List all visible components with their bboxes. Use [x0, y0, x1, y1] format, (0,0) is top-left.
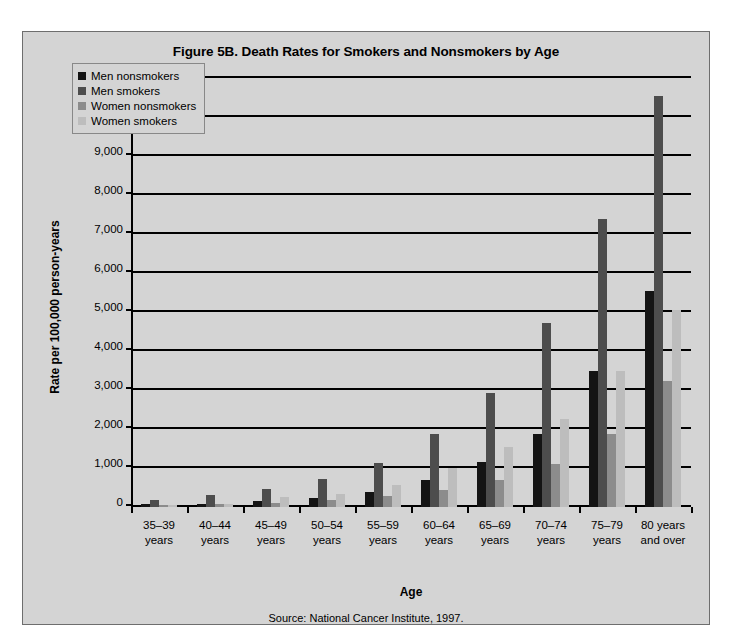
bar-group: [421, 78, 458, 507]
y-tick-label: 2,000: [94, 418, 123, 430]
bar-group: [533, 78, 570, 507]
bar: [374, 463, 383, 507]
bar: [318, 479, 327, 507]
bar: [392, 485, 401, 507]
bar: [336, 494, 345, 507]
bar: [271, 503, 280, 507]
bar: [654, 96, 663, 507]
x-tick-mark: [299, 507, 301, 513]
chart-legend: Men nonsmokersMen smokersWomen nonsmoker…: [72, 63, 205, 134]
bar: [495, 480, 504, 507]
bar: [206, 495, 215, 507]
bar: [542, 323, 551, 507]
bar: [645, 291, 654, 507]
x-axis-title: Age: [131, 585, 691, 599]
legend-item[interactable]: Women smokers: [78, 113, 196, 128]
bar: [589, 371, 598, 507]
y-tick-label: 3,000: [94, 379, 123, 391]
x-category-label: 70–74years: [535, 518, 567, 547]
legend-swatch-icon: [78, 102, 86, 110]
bar: [533, 434, 542, 507]
legend-item[interactable]: Men smokers: [78, 83, 196, 98]
bar: [168, 505, 177, 507]
legend-swatch-icon: [78, 117, 86, 125]
bar-group: [309, 78, 346, 507]
x-tick-mark: [467, 507, 469, 513]
x-category-label: 45–49years: [255, 518, 287, 547]
bar: [421, 480, 430, 507]
bar: [253, 501, 262, 507]
bar: [365, 492, 374, 507]
y-tick-label: 5,000: [94, 301, 123, 313]
bar-group: [253, 78, 290, 507]
bar: [224, 504, 233, 508]
bar: [383, 496, 392, 507]
plot-area: 01,0002,0003,0004,0005,0006,0007,0008,00…: [131, 78, 691, 507]
x-category-label: 65–69years: [479, 518, 511, 547]
x-tick-mark: [411, 507, 413, 513]
bar: [197, 504, 206, 508]
bar: [159, 505, 168, 507]
legend-swatch-icon: [78, 87, 86, 95]
x-category-label: 60–64years: [423, 518, 455, 547]
chart-title: Figure 5B. Death Rates for Smokers and N…: [23, 44, 709, 59]
y-tick-label: 0: [117, 496, 123, 508]
bar: [262, 489, 271, 507]
bar: [439, 490, 448, 507]
y-tick-label: 9,000: [94, 145, 123, 157]
y-tick-label: 7,000: [94, 223, 123, 235]
bar-group: [365, 78, 402, 507]
bar: [448, 468, 457, 507]
x-tick-mark: [355, 507, 357, 513]
x-category-label: 55–59years: [367, 518, 399, 547]
y-axis-title: Rate per 100,000 person-years: [48, 187, 62, 427]
bar: [309, 498, 318, 507]
bar: [672, 310, 681, 507]
bar: [616, 371, 625, 507]
bar: [150, 500, 159, 507]
bar: [598, 219, 607, 507]
bar: [430, 434, 439, 507]
y-tick-label: 4,000: [94, 340, 123, 352]
bar: [551, 464, 560, 507]
bar: [486, 393, 495, 507]
x-tick-mark: [635, 507, 637, 513]
bar-group: [477, 78, 514, 507]
bar: [280, 497, 289, 507]
x-tick-mark: [579, 507, 581, 513]
source-note: Source: National Cancer Institute, 1997.: [23, 612, 709, 624]
bar: [560, 419, 569, 507]
bar: [477, 462, 486, 507]
bar: [141, 504, 150, 507]
legend-item-label: Women smokers: [91, 115, 177, 127]
bar-group: [197, 78, 234, 507]
bar: [504, 447, 513, 507]
bar: [663, 381, 672, 507]
legend-item-label: Men nonsmokers: [91, 70, 179, 82]
x-category-label: 50–54years: [311, 518, 343, 547]
x-tick-mark: [187, 507, 189, 513]
legend-item-label: Men smokers: [91, 85, 160, 97]
y-tick-label: 8,000: [94, 184, 123, 196]
bar: [327, 500, 336, 507]
x-tick-mark: [691, 507, 693, 513]
bar-group: [589, 78, 626, 507]
x-category-label: 35–39years: [143, 518, 175, 547]
legend-item[interactable]: Women nonsmokers: [78, 98, 196, 113]
x-tick-mark: [523, 507, 525, 513]
legend-item[interactable]: Men nonsmokers: [78, 68, 196, 83]
y-tick-label: 6,000: [94, 262, 123, 274]
x-tick-mark: [243, 507, 245, 513]
bar: [215, 504, 224, 507]
figure-container: Figure 5B. Death Rates for Smokers and N…: [22, 31, 710, 625]
legend-swatch-icon: [78, 72, 86, 80]
x-tick-mark: [131, 507, 133, 513]
x-category-label: 75–79years: [591, 518, 623, 547]
legend-item-label: Women nonsmokers: [91, 100, 196, 112]
bar-group: [645, 78, 682, 507]
y-tick-label: 1,000: [94, 457, 123, 469]
bars-layer: [131, 78, 691, 507]
bar-group: [141, 78, 178, 507]
x-category-label: 80 yearsand over: [641, 518, 686, 547]
bar: [607, 434, 616, 507]
